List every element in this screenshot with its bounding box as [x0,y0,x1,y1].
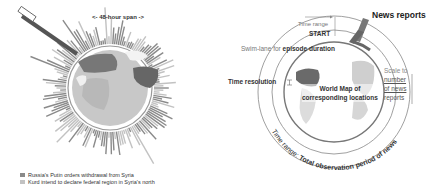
world-map-line1: World Map of [302,84,378,93]
span-label: <- 48-hour span -> [92,14,144,20]
legend-swatch-light [20,180,25,184]
legend-item: Kurd intend to declare federal region in… [20,179,155,185]
time-resolution-label: Time resolution [228,78,276,85]
scale-line4: reports [384,93,408,102]
legend-swatch-dark [20,173,25,177]
scale-line1: Scale to [384,66,408,75]
right-schematic-figure: Time range: Total observation period of … [0,0,447,192]
scale-line3: of news [384,84,408,93]
swim-lane-bold: episode duration [283,45,335,52]
legend-label: Kurd intend to declare federal region in… [28,179,155,185]
start-label: START [309,30,330,37]
swim-lane-label: Swim-lane for episode duration [241,45,335,52]
legend-item: Russia's Putin orders withdrawal from Sy… [20,172,134,178]
scale-line2: number [384,75,408,84]
world-map-line2: corresponding locations [302,93,378,102]
legend-label: Russia's Putin orders withdrawal from Sy… [28,172,134,178]
swim-lane-prefix: Swim-lane for [241,45,281,52]
scale-label: Scale to number of news reports [384,66,408,102]
news-reports-label: News reports [372,10,426,20]
time-range-label: Time range [298,21,328,27]
world-map-label: World Map of corresponding locations [302,84,378,102]
